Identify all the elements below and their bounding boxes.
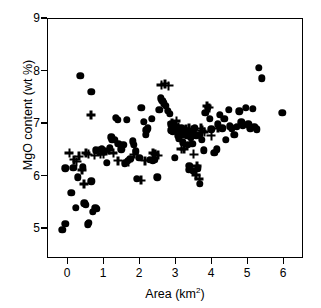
data-point-circle [221, 115, 228, 122]
data-point-plus [113, 156, 122, 165]
x-axis-label-base: Area (km [145, 287, 196, 301]
data-point-circle [255, 64, 262, 71]
x-tick-label-4: 4 [200, 267, 222, 279]
x-tick-mark-4 [211, 258, 213, 264]
x-tick-mark-0 [67, 258, 69, 264]
x-tick-label-6: 6 [272, 267, 294, 279]
x-tick-label-0: 0 [56, 267, 78, 279]
data-point-circle [59, 226, 66, 233]
data-point-plus [137, 176, 146, 185]
data-point-plus [77, 166, 86, 175]
plot-area [47, 18, 303, 258]
data-point-circle [72, 204, 79, 211]
x-tick-mark-6 [283, 258, 285, 264]
data-point-circle [188, 140, 195, 147]
data-point-circle [61, 220, 68, 227]
x-tick-label-5: 5 [236, 267, 258, 279]
data-point-plus [204, 103, 213, 112]
data-point-circle [213, 145, 220, 152]
data-point-circle [153, 174, 160, 181]
data-point-circle [200, 147, 207, 154]
data-point-circle [114, 116, 121, 123]
y-axis-label: MgO content (wt %) [21, 35, 35, 195]
data-point-circle [76, 72, 83, 79]
x-tick-mark-3 [175, 258, 177, 264]
data-point-circle [253, 126, 260, 133]
data-point-circle [249, 105, 256, 112]
data-point-circle [88, 88, 95, 95]
data-point-circle [88, 178, 95, 185]
data-point-circle [279, 109, 286, 116]
data-point-plus [87, 110, 96, 119]
x-tick-label-1: 1 [92, 267, 114, 279]
x-tick-mark-2 [139, 258, 141, 264]
data-point-circle [120, 141, 127, 148]
data-point-circle [138, 104, 145, 111]
data-point-plus [195, 174, 204, 183]
data-point-plus [180, 145, 189, 154]
data-point-circle [198, 136, 205, 143]
x-axis-label: Area (km2) [47, 286, 303, 301]
x-tick-label-3: 3 [164, 267, 186, 279]
data-point-plus [140, 156, 149, 165]
data-point-circle [82, 201, 89, 208]
data-point-circle [258, 75, 265, 82]
data-point-circle [171, 154, 178, 161]
data-point-circle [231, 131, 238, 138]
x-tick-mark-1 [103, 258, 105, 264]
data-point-circle [68, 189, 75, 196]
data-point-circle [61, 165, 68, 172]
data-point-plus [164, 81, 173, 90]
data-point-circle [222, 136, 229, 143]
data-point-circle [123, 116, 130, 123]
data-point-plus [187, 126, 196, 135]
x-axis-label-close: ) [200, 287, 204, 301]
data-point-circle [93, 205, 100, 212]
data-point-circle [103, 159, 110, 166]
y-tick-label-9: 9 [18, 12, 40, 24]
data-point-plus [213, 124, 222, 133]
data-point-plus [193, 161, 202, 170]
data-point-plus [189, 150, 198, 159]
data-point-circle [225, 106, 232, 113]
data-point-circle [206, 115, 213, 122]
data-point-plus [80, 180, 89, 189]
data-point-circle [85, 219, 92, 226]
y-tick-label-5: 5 [18, 222, 40, 234]
data-point-circle [148, 115, 155, 122]
scatter-plot-figure: 9 8 7 6 5 0 1 2 3 4 5 6 MgO content (wt … [0, 0, 321, 308]
x-tick-mark-5 [247, 258, 249, 264]
data-point-plus [153, 151, 162, 160]
x-tick-label-2: 2 [128, 267, 150, 279]
data-point-plus [129, 150, 138, 159]
data-point-circle [144, 125, 151, 132]
